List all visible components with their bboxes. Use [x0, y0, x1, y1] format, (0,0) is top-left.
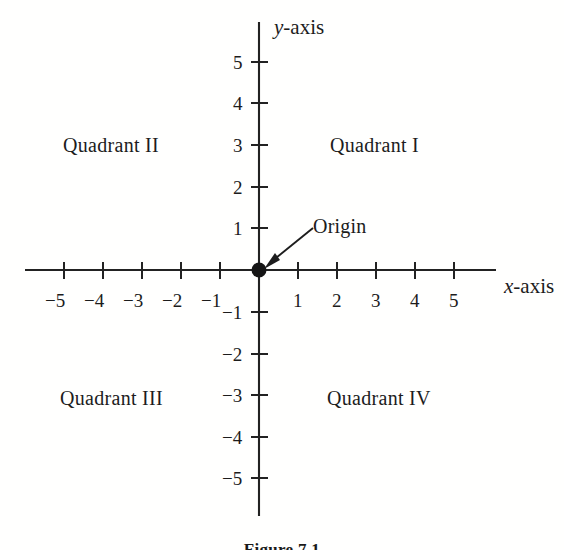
coordinate-plane-graphic — [0, 0, 564, 550]
y-tick-label-pos2: 2 — [233, 178, 243, 197]
x-axis-label-variable: x — [504, 274, 513, 298]
figure-caption: Figure 7.1 — [0, 540, 564, 550]
y-tick-label-pos1: 1 — [233, 219, 243, 238]
x-tick-label-neg4: −4 — [84, 291, 104, 310]
x-tick-label-neg2: −2 — [162, 291, 182, 310]
y-tick-label-neg5: −5 — [222, 469, 242, 488]
x-tick-label-neg5: −5 — [45, 291, 65, 310]
x-tick-label-pos3: 3 — [371, 291, 381, 310]
y-axis-label-suffix: -axis — [283, 15, 324, 39]
origin-arrowhead-icon — [264, 253, 280, 269]
quadrant-label-iv: Quadrant IV — [327, 388, 431, 408]
x-axis-label-suffix: -axis — [513, 274, 554, 298]
x-tick-label-pos5: 5 — [449, 291, 459, 310]
y-tick-label-neg2: −2 — [222, 345, 242, 364]
origin-annotation-label: Origin — [313, 216, 366, 236]
y-tick-label-neg3: −3 — [222, 386, 242, 405]
x-axis-label: x-axis — [504, 276, 554, 297]
quadrant-label-iii: Quadrant III — [60, 388, 163, 408]
y-tick-label-neg4: −4 — [222, 428, 242, 447]
y-tick-label-pos4: 4 — [233, 94, 243, 113]
y-axis-label: y-axis — [274, 17, 324, 38]
x-tick-label-pos4: 4 — [410, 291, 420, 310]
origin-point-marker — [252, 263, 267, 278]
y-tick-label-pos3: 3 — [233, 136, 243, 155]
y-tick-label-neg1: −1 — [222, 303, 242, 322]
x-tick-label-pos1: 1 — [293, 291, 303, 310]
figure-canvas: y-axis x-axis −5 −4 −3 −2 −1 1 2 3 4 5 5… — [0, 0, 564, 550]
x-tick-label-neg1: −1 — [201, 291, 221, 310]
x-tick-label-pos2: 2 — [332, 291, 342, 310]
quadrant-label-ii: Quadrant II — [63, 135, 159, 155]
y-axis-label-variable: y — [274, 15, 283, 39]
x-tick-label-neg3: −3 — [123, 291, 143, 310]
y-tick-label-pos5: 5 — [233, 53, 243, 72]
quadrant-label-i: Quadrant I — [330, 135, 419, 155]
